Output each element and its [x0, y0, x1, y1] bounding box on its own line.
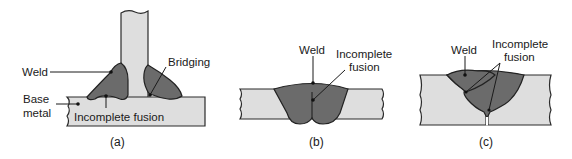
caption-a: (a)	[110, 135, 125, 149]
weld-marker-a	[109, 70, 113, 74]
weld-marker-b	[311, 81, 315, 85]
label-incomplete-c-1: Incomplete	[492, 38, 548, 50]
incomplete-fusion-marker-b	[311, 98, 315, 102]
panel-a-fillet-weld: Weld Bridging Base metal Incomplete fusi…	[22, 11, 210, 149]
weld-marker-c	[463, 73, 467, 77]
label-incomplete-b-1: Incomplete	[336, 48, 392, 60]
panel-b-butt-weld: Weld Incomplete fusion (b)	[240, 44, 392, 149]
label-weld-c: Weld	[451, 44, 477, 56]
label-incomplete-fusion-a: Incomplete fusion	[74, 111, 164, 123]
base-metal-marker	[76, 102, 80, 106]
label-incomplete-b-2: fusion	[349, 61, 380, 73]
weld-defects-diagram: Weld Bridging Base metal Incomplete fusi…	[0, 0, 572, 159]
label-base-metal-1: Base	[23, 93, 49, 105]
label-weld-a: Weld	[22, 66, 48, 78]
label-weld-b: Weld	[299, 44, 325, 56]
incomplete-fusion-marker-a	[104, 94, 108, 98]
root-gap	[486, 117, 488, 125]
weld-left-a	[87, 63, 128, 100]
incomplete-fusion-marker-c2	[487, 108, 490, 111]
incomplete-fusion-marker-c1	[464, 90, 467, 93]
panel-c-multipass-weld: Weld Incomplete fusion (c)	[420, 38, 551, 149]
bridging-marker	[148, 93, 152, 97]
label-bridging: Bridging	[168, 56, 210, 68]
caption-b: (b)	[309, 135, 324, 149]
label-incomplete-c-2: fusion	[504, 51, 535, 63]
label-base-metal-2: metal	[23, 107, 51, 119]
caption-c: (c)	[479, 135, 493, 149]
